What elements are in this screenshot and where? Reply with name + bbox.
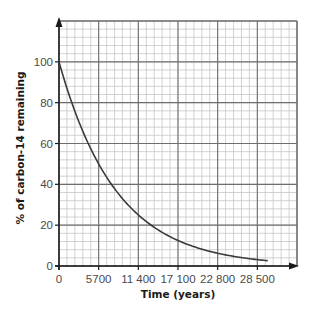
x-tick-label: 22 800 <box>200 273 235 285</box>
decay-curve <box>59 62 267 261</box>
x-tick-label: 17 100 <box>160 273 195 285</box>
x-axis-title: Time (years) <box>141 288 216 300</box>
x-tick-label: 5700 <box>86 273 112 285</box>
curve-layer <box>59 62 267 261</box>
x-tick-labels: 0570011 40017 10022 80028 500 <box>56 273 275 285</box>
y-tick-label: 0 <box>47 260 53 272</box>
y-tick-label: 100 <box>34 56 53 68</box>
x-tick-label: 0 <box>56 273 62 285</box>
x-tick-label: 28 500 <box>240 273 275 285</box>
y-tick-label: 80 <box>40 97 53 109</box>
chart: 0570011 40017 10022 80028 500 0204060801… <box>0 0 313 320</box>
x-tick-label: 11 400 <box>121 273 155 285</box>
y-axis-title: % of carbon-14 remaining <box>14 72 26 225</box>
y-tick-label: 20 <box>40 219 53 231</box>
y-tick-labels: 020406080100 <box>34 56 53 272</box>
y-tick-label: 60 <box>40 138 53 150</box>
major-grid <box>59 21 297 266</box>
y-tick-label: 40 <box>40 178 53 190</box>
y-axis-arrow-icon <box>56 17 63 27</box>
